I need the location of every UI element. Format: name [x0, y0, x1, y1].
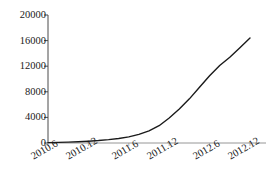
x-tick-label: 2010.12: [64, 135, 99, 162]
x-tick-label: 2010.6: [29, 138, 60, 162]
line-chart-figure: 0 4000 8000 12000 16000 20000 2010.6 201…: [0, 0, 273, 185]
x-tick-label: 2012.12: [226, 135, 261, 162]
x-tick-label: 2011.12: [145, 135, 180, 161]
x-tick-label: 2011.6: [110, 138, 140, 162]
x-tick-label: 2012.6: [191, 138, 222, 162]
x-tick-label-group: 2010.6 2010.12 2011.6 2011.12 2012.6 201…: [0, 0, 273, 185]
